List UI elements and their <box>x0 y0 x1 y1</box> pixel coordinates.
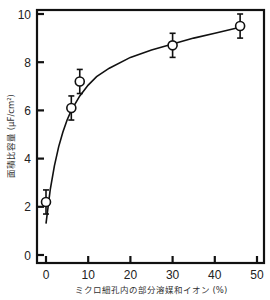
x-tick-label: 50 <box>250 268 264 282</box>
y-tick-label: 2 <box>24 200 31 214</box>
data-point-marker <box>75 77 84 86</box>
data-point-marker <box>236 22 245 31</box>
y-tick-label: 10 <box>18 8 32 22</box>
x-tick-label: 20 <box>124 268 138 282</box>
data-point-marker <box>67 103 76 112</box>
x-axis-ticks: 01020304050 <box>43 256 264 282</box>
x-tick-label: 40 <box>208 268 222 282</box>
y-tick-label: 8 <box>24 56 31 70</box>
y-axis-ticks: 0246810 <box>18 8 44 263</box>
fit-curve <box>46 27 240 223</box>
y-axis-label: 面積比容量 (μF/cm²) <box>6 94 16 178</box>
x-tick-label: 30 <box>166 268 180 282</box>
data-point-marker <box>168 41 177 50</box>
x-tick-label: 0 <box>43 268 50 282</box>
x-tick-label: 10 <box>82 268 96 282</box>
y-tick-label: 6 <box>24 104 31 118</box>
plot-frame <box>37 10 264 263</box>
y-tick-label: 4 <box>24 152 31 166</box>
y-tick-label: 0 <box>24 249 31 263</box>
x-axis-label: ミクロ細孔内の部分溶媒和イオン (%) <box>75 285 227 295</box>
data-point-marker <box>42 197 51 206</box>
chart: 0246810 01020304050 面積比容量 (μF/cm²) ミクロ細孔… <box>0 0 270 300</box>
data-points <box>42 14 245 214</box>
